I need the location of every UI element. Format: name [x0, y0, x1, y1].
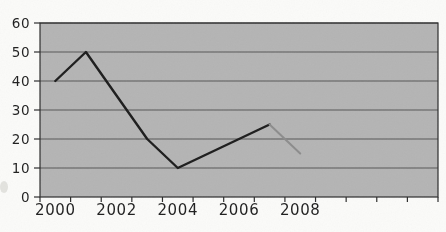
chart-svg: 010203040506020002002200420062008	[0, 0, 446, 232]
line-chart-figure: 010203040506020002002200420062008	[0, 0, 446, 232]
paper-grain-texture	[0, 0, 446, 232]
